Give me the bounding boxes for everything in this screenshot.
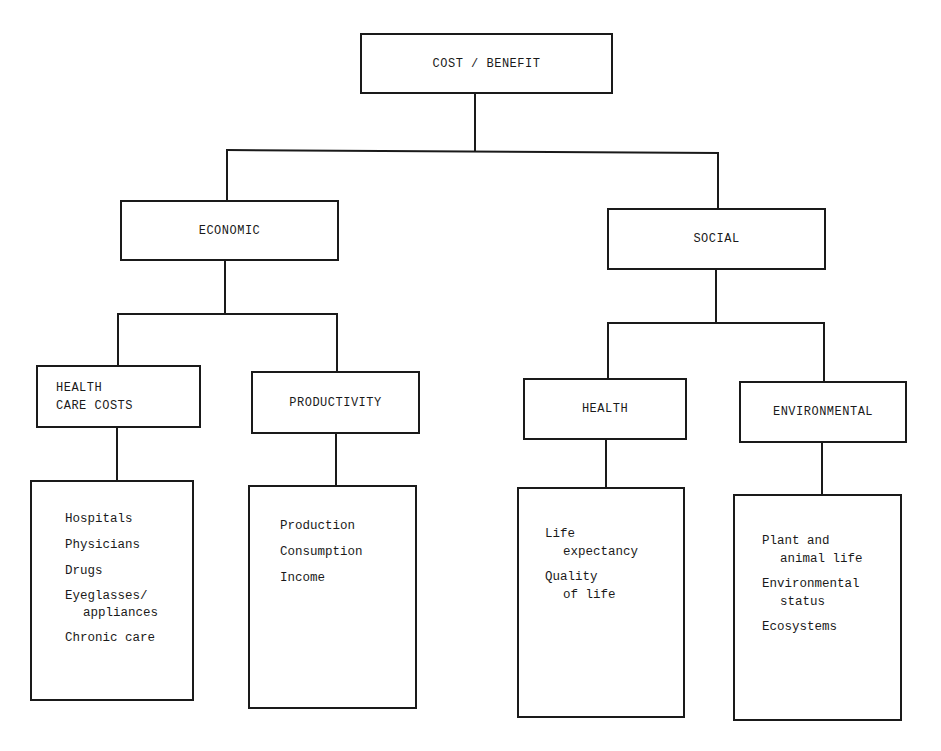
connector-health-drop <box>607 322 609 379</box>
node-health-care-costs-label: HEALTH CARE COSTS <box>56 379 133 415</box>
list-environmental: Plant andanimal life Environmentalstatus… <box>733 494 902 721</box>
node-environmental-label: ENVIRONMENTAL <box>773 403 873 421</box>
connector-environmental-stem <box>821 440 823 496</box>
node-health: HEALTH <box>523 378 687 440</box>
connector-productivity-stem <box>335 432 337 486</box>
connector-hcc-drop <box>117 313 119 366</box>
connector-root-bar <box>226 149 719 154</box>
list-item: Ecosystems <box>762 618 863 637</box>
list-productivity: Production Consumption Income <box>248 485 417 709</box>
connector-productivity-drop <box>336 314 338 373</box>
connector-environmental-drop <box>823 323 825 383</box>
list-item: Environmentalstatus <box>762 575 863 611</box>
list-item: Plant andanimal life <box>762 532 863 568</box>
node-productivity-label: PRODUCTIVITY <box>289 394 381 412</box>
list-health-care-costs: Hospitals Physicians Drugs Eyeglasses/ap… <box>30 480 194 701</box>
node-social-label: SOCIAL <box>693 230 739 248</box>
list-item: Physicians <box>65 536 158 555</box>
list-item: Production <box>280 517 363 536</box>
list-item: Qualityof life <box>545 568 638 604</box>
node-health-care-costs: HEALTH CARE COSTS <box>36 365 201 428</box>
connector-hcc-stem <box>116 426 118 481</box>
node-economic: ECONOMIC <box>120 200 339 261</box>
list-item: Consumption <box>280 543 363 562</box>
connector-social-bar <box>608 322 825 324</box>
list-item: Lifeexpectancy <box>545 525 638 561</box>
list-health: Lifeexpectancy Qualityof life <box>517 487 685 718</box>
connector-economic-bar <box>117 313 338 315</box>
connector-economic-stem <box>224 259 226 314</box>
node-health-label: HEALTH <box>582 400 628 418</box>
list-item: Hospitals <box>65 510 158 529</box>
connector-root-stem <box>474 92 476 152</box>
list-item: Drugs <box>65 562 158 581</box>
node-productivity: PRODUCTIVITY <box>251 371 420 434</box>
node-economic-label: ECONOMIC <box>199 222 261 240</box>
node-social: SOCIAL <box>607 208 826 270</box>
list-item: Chronic care <box>65 629 158 648</box>
node-environmental: ENVIRONMENTAL <box>739 381 907 443</box>
root-node-cost-benefit: COST / BENEFIT <box>360 33 613 94</box>
connector-social-drop <box>717 152 719 210</box>
root-node-label: COST / BENEFIT <box>433 55 541 73</box>
connector-social-stem <box>715 268 717 324</box>
connector-economic-drop <box>226 149 228 201</box>
list-item: Income <box>280 569 363 588</box>
list-item: Eyeglasses/appliances <box>65 588 158 622</box>
connector-health-stem <box>605 438 607 488</box>
